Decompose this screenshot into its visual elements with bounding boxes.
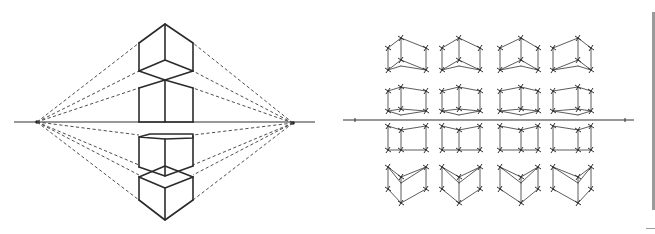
sketch-cube (439, 84, 483, 115)
cube-above-horizon (139, 24, 193, 80)
sketch-cube (385, 123, 429, 153)
sketch-cube (550, 84, 594, 115)
sketch-cube (497, 164, 541, 206)
left-panel-two-point-perspective (14, 24, 315, 220)
perspective-diagram (0, 0, 655, 234)
sketch-cube (439, 164, 483, 206)
sketch-cube (385, 164, 429, 206)
sketch-cube (497, 84, 541, 115)
sketch-cube (439, 35, 483, 73)
cube-far-below-horizon (139, 166, 193, 220)
sketch-cube (385, 84, 429, 115)
scrollbar-end-marker (646, 228, 655, 229)
sketch-cube (385, 35, 429, 73)
cube-touching-horizon (139, 80, 193, 122)
sketch-cube (439, 123, 483, 153)
sketch-cube (497, 123, 541, 153)
cube-below-horizon (139, 134, 193, 176)
sketch-cube (550, 164, 594, 206)
right-panel-cube-grid (343, 35, 634, 206)
sketch-cube (550, 35, 594, 73)
sketch-cube (550, 123, 594, 153)
sketch-cube (497, 35, 541, 73)
